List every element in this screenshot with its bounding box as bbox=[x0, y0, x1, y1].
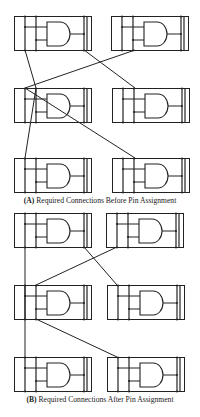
module-a-r2-right bbox=[113, 88, 190, 124]
and-gate-icon bbox=[47, 291, 70, 315]
module-b-r1-left bbox=[15, 213, 92, 249]
module-b-r3-left bbox=[15, 357, 92, 393]
and-gate-icon bbox=[140, 363, 163, 387]
module-a-r1-right bbox=[112, 16, 189, 52]
and-gate-icon bbox=[144, 22, 167, 46]
and-gate-icon bbox=[47, 219, 70, 243]
caption-b-text: Required Connections After Pin Assignmen… bbox=[39, 395, 174, 404]
module-a-r3-right bbox=[113, 158, 190, 194]
wire-a-3 bbox=[25, 50, 135, 88]
caption-a-text: Required Connections Before Pin Assignme… bbox=[36, 196, 176, 205]
wire-a-2 bbox=[84, 50, 135, 88]
and-gate-icon bbox=[47, 363, 70, 387]
module-b-r2-left bbox=[15, 285, 92, 321]
module-a-r3-left bbox=[15, 158, 92, 194]
wire-b-4 bbox=[36, 319, 117, 357]
panel-a bbox=[15, 16, 190, 194]
pin-assignment-diagram bbox=[0, 0, 200, 417]
caption-b: (B) Required Connections After Pin Assig… bbox=[0, 395, 200, 404]
panel-b bbox=[15, 213, 185, 393]
and-gate-icon bbox=[47, 164, 70, 188]
and-gate-icon bbox=[47, 22, 70, 46]
caption-b-tag: (B) bbox=[26, 395, 36, 404]
module-a-r1-left bbox=[15, 16, 92, 52]
caption-a: (A) Required Connections Before Pin Assi… bbox=[0, 196, 200, 205]
caption-a-tag: (A) bbox=[24, 196, 35, 205]
and-gate-icon bbox=[145, 94, 168, 118]
wire-a-1 bbox=[25, 50, 36, 88]
module-b-r2-right bbox=[108, 285, 185, 321]
and-gate-icon bbox=[139, 219, 162, 243]
wire-b-2 bbox=[36, 247, 117, 285]
module-b-r1-right bbox=[107, 213, 184, 249]
module-b-r3-right bbox=[108, 357, 185, 393]
and-gate-icon bbox=[145, 164, 168, 188]
and-gate-icon bbox=[140, 291, 163, 315]
wire-b-3 bbox=[84, 247, 117, 285]
